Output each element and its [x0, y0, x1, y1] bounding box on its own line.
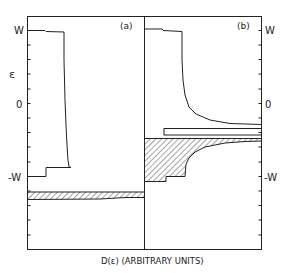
dos-diagram: (a) (b) W ε 0 -W W 0 -W D(ε) (ARBITRARY …: [0, 0, 285, 273]
y-axis-symbol: ε: [9, 68, 15, 81]
panel-a-hatched-band: [28, 192, 145, 200]
left-tick-label-W: W: [14, 25, 24, 36]
panel-b-dos-curve: [145, 29, 262, 125]
panel-a-label: (a): [120, 21, 133, 31]
right-tick-label-minus-W: -W: [264, 172, 277, 183]
x-axis-label: D(ε) (ARBITRARY UNITS): [101, 256, 204, 266]
right-tick-label-W: W: [265, 25, 275, 36]
panel-a-frame: [28, 17, 145, 250]
right-tick-label-zero: 0: [265, 99, 271, 110]
left-tick-label-minus-W: -W: [8, 172, 21, 183]
panel-b-hatched-region: [145, 139, 262, 182]
panel-b-label: (b): [237, 21, 250, 31]
panel-a-dos-curve: [28, 31, 72, 177]
panel-b-open-band: [164, 129, 262, 136]
left-tick-label-zero: 0: [16, 99, 22, 110]
panel-b-frame: [145, 17, 262, 250]
